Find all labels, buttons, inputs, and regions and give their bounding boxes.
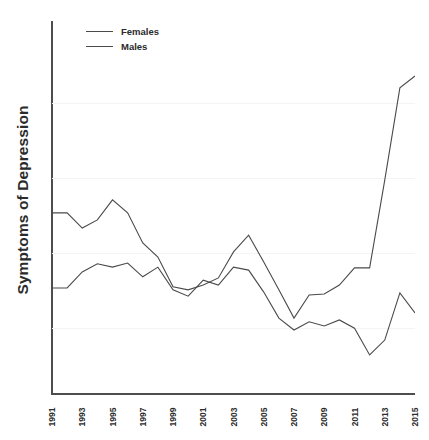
x-tick-label: 2001 — [196, 396, 210, 436]
x-tick-label: 1991 — [45, 396, 59, 436]
x-tick-label-text: 2015 — [410, 408, 420, 427]
x-axis-tick-labels: 1991199319951997199920012003200520072009… — [52, 396, 415, 440]
x-tick-label: 2009 — [317, 396, 331, 436]
legend-label-females: Females — [121, 26, 159, 37]
x-tick-label: 2003 — [227, 396, 241, 436]
legend-item-males: Males — [86, 39, 216, 54]
plot-area — [52, 22, 415, 394]
x-tick-label-text: 1999 — [168, 408, 178, 427]
x-tick-label: 1993 — [75, 396, 89, 436]
legend-swatch-icon — [86, 31, 113, 32]
y-axis-title-text: Symptoms of Depression — [14, 105, 32, 294]
x-tick-label-text: 2009 — [319, 408, 329, 427]
y-axis-title: Symptoms of Depression — [0, 0, 46, 400]
x-tick-label-text: 2011 — [350, 408, 360, 426]
series-layer — [52, 22, 415, 394]
legend-label-males: Males — [121, 41, 147, 52]
chart-legend: Females Males — [86, 24, 216, 54]
x-tick-label-text: 1991 — [47, 408, 57, 427]
x-tick-label: 1997 — [136, 396, 150, 436]
x-tick-label-text: 2003 — [229, 408, 239, 427]
x-tick-label-text: 2007 — [289, 408, 299, 427]
x-tick-label-text: 2013 — [380, 408, 390, 427]
x-tick-label: 2007 — [287, 396, 301, 436]
legend-swatch-icon — [86, 46, 113, 47]
series-line-females — [52, 76, 415, 318]
x-tick-label-text: 2001 — [198, 408, 208, 427]
x-tick-label: 2013 — [378, 396, 392, 436]
series-line-males — [52, 263, 415, 355]
x-tick-label: 1995 — [106, 396, 120, 436]
x-tick-label: 1999 — [166, 396, 180, 436]
x-tick-label-text: 1997 — [138, 408, 148, 427]
x-tick-label: 2015 — [408, 396, 422, 436]
x-tick-label-text: 1995 — [108, 408, 118, 427]
x-tick-label-text: 2005 — [259, 408, 269, 427]
x-tick-label-text: 1993 — [77, 408, 87, 427]
x-tick-label: 2005 — [257, 396, 271, 436]
legend-item-females: Females — [86, 24, 216, 39]
depression-line-chart: Symptoms of Depression Females Males 199… — [0, 0, 429, 440]
x-tick-label: 2011 — [348, 396, 362, 436]
